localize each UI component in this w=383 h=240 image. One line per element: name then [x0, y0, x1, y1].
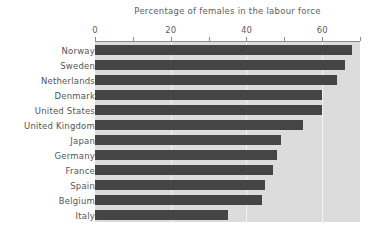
y-axis-label: Germany — [55, 151, 95, 161]
bar-row — [95, 60, 360, 70]
chart-title: Percentage of females in the labour forc… — [95, 6, 360, 16]
y-axis-label: France — [66, 166, 95, 176]
y-axis-label: Italy — [76, 211, 95, 221]
bar — [95, 195, 262, 205]
bar — [95, 45, 352, 55]
bar — [95, 165, 273, 175]
x-axis: 0204060 — [95, 41, 360, 42]
y-axis-label: Denmark — [55, 91, 95, 101]
x-tick-label: 60 — [317, 25, 328, 35]
bar-row — [95, 75, 360, 85]
bar — [95, 150, 277, 160]
x-tick-mark — [322, 37, 323, 41]
y-axis-label: Belgium — [59, 196, 95, 206]
bar — [95, 105, 322, 115]
bar-row — [95, 90, 360, 100]
y-axis-label: Japan — [70, 136, 95, 146]
y-axis-label: Sweden — [60, 61, 95, 71]
plot-area — [95, 42, 360, 222]
bar-row — [95, 45, 360, 55]
x-tick-label: 0 — [92, 25, 97, 35]
bar — [95, 90, 322, 100]
bar-row — [95, 210, 360, 220]
x-tick-mark — [171, 37, 172, 41]
bar-chart: Percentage of females in the labour forc… — [0, 0, 383, 240]
y-axis-label: Netherlands — [41, 76, 95, 86]
bar-row — [95, 120, 360, 130]
x-tick-label: 40 — [241, 25, 252, 35]
bar — [95, 180, 265, 190]
y-axis-label: United States — [35, 106, 95, 116]
y-axis-label: United Kingdom — [24, 121, 95, 131]
bar — [95, 210, 228, 220]
x-tick-mark — [284, 37, 285, 41]
bar — [95, 60, 345, 70]
bar-row — [95, 105, 360, 115]
bar-row — [95, 135, 360, 145]
bar — [95, 75, 337, 85]
x-tick-label: 20 — [165, 25, 176, 35]
bar — [95, 120, 303, 130]
bar-row — [95, 150, 360, 160]
y-axis-label: Spain — [70, 181, 95, 191]
x-tick-mark — [133, 37, 134, 41]
bar-row — [95, 165, 360, 175]
x-tick-mark — [95, 37, 96, 41]
x-tick-mark — [209, 37, 210, 41]
x-tick-mark — [246, 37, 247, 41]
x-tick-mark — [360, 37, 361, 41]
bar-row — [95, 180, 360, 190]
y-axis-label: Norway — [62, 46, 95, 56]
bar-row — [95, 195, 360, 205]
x-axis-line — [95, 41, 360, 42]
bar — [95, 135, 281, 145]
